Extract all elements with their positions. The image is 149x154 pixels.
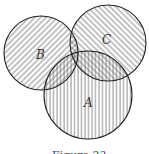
set-c-label: C xyxy=(102,33,111,47)
venn-diagram: A B C Figure 23 xyxy=(0,0,149,154)
figure-caption: Figure 23 xyxy=(52,149,107,154)
set-a-label: A xyxy=(83,96,93,110)
set-b-label: B xyxy=(35,48,45,62)
